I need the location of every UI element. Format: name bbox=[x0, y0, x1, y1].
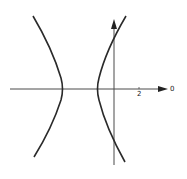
hyperbola-diagram bbox=[0, 0, 187, 179]
vertical-axis-arrowhead bbox=[111, 19, 117, 29]
polar-axis-arrowhead bbox=[158, 86, 168, 92]
left-hyperbola-branch bbox=[33, 16, 63, 157]
tick-label-2: 2 bbox=[137, 91, 141, 98]
polar-axis-label: 0 bbox=[170, 86, 174, 93]
